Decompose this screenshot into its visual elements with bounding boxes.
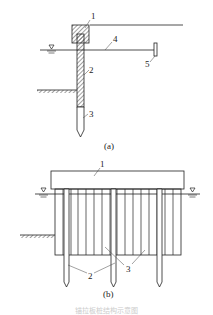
diagram-canvas [0,0,213,315]
figure-b [20,168,200,287]
label-b-2: 2 [88,272,93,281]
caption-b: (b) [103,289,114,299]
label-b-3: 3 [126,265,131,274]
caption-a: (a) [104,141,114,151]
figure-caption: 锚拉板桩结构示意图 [0,305,213,315]
anchor-plate [154,43,157,56]
bearing-piles [64,189,162,287]
water-level-icon-left [39,188,48,197]
sheet-pile [77,34,84,107]
cap-beam [51,171,184,189]
pile-tip [77,107,84,137]
sheet-pile-lines [63,189,173,255]
label-a-4: 4 [113,35,118,44]
label-a-1: 1 [91,12,96,21]
figure-a [37,20,183,137]
label-a-5: 5 [145,60,150,69]
label-a-3: 3 [89,110,94,119]
label-a-2: 2 [89,66,94,75]
ground-hatch-b [20,235,55,238]
ground-hatch [37,90,77,93]
label-b-1: 1 [100,160,105,169]
water-level-icon [47,45,56,53]
water-level-icon-right [188,188,197,197]
